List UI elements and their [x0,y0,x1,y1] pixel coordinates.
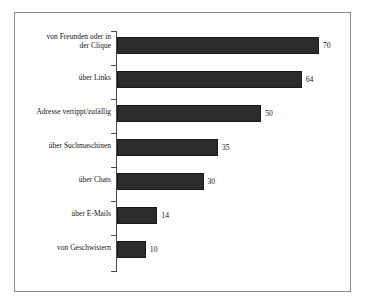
category-label: über E-Mails [14,210,111,219]
bar-row: über Chats 30 [14,173,351,190]
axis-tick [111,201,116,202]
category-label-line2: der Clique [14,42,111,51]
category-label: von Geschwistern [14,244,111,253]
bar[interactable] [117,241,146,258]
axis-tick [111,167,116,168]
bar[interactable] [117,139,218,156]
axis-tick [111,99,116,100]
bar-row: von Geschwistern 10 [14,241,351,258]
bar-chart-plot-area: von Freunden oder in der Clique 70 über … [14,12,351,292]
axis-tick [111,133,116,134]
axis-tick [111,31,116,32]
bar-row: über Links 64 [14,71,351,88]
bar[interactable] [117,71,302,88]
bar-value-label: 10 [150,245,158,254]
bar-value-label: 35 [222,143,230,152]
axis-tick [111,271,116,272]
bar-row: von Freunden oder in der Clique 70 [14,37,351,54]
category-label: Adresse vertippt/zufällig [14,108,111,117]
category-label: von Freunden oder in der Clique [14,33,111,50]
bar[interactable] [117,207,157,224]
bar-value-label: 70 [323,41,331,50]
bar[interactable] [117,37,319,54]
bar-value-label: 50 [265,109,273,118]
bar-value-label: 30 [208,177,216,186]
category-label: über Suchmaschinen [14,142,111,151]
bar-value-label: 14 [161,211,169,220]
bar[interactable] [117,173,204,190]
category-label: über Links [14,74,111,83]
bar[interactable] [117,105,261,122]
chart-figure: von Freunden oder in der Clique 70 über … [0,0,365,307]
bar-value-label: 64 [306,75,314,84]
axis-tick [111,65,116,66]
axis-tick [111,235,116,236]
category-label: über Chats [14,176,111,185]
bar-row: Adresse vertippt/zufällig 50 [14,105,351,122]
bar-row: über Suchmaschinen 35 [14,139,351,156]
bar-row: über E-Mails 14 [14,207,351,224]
